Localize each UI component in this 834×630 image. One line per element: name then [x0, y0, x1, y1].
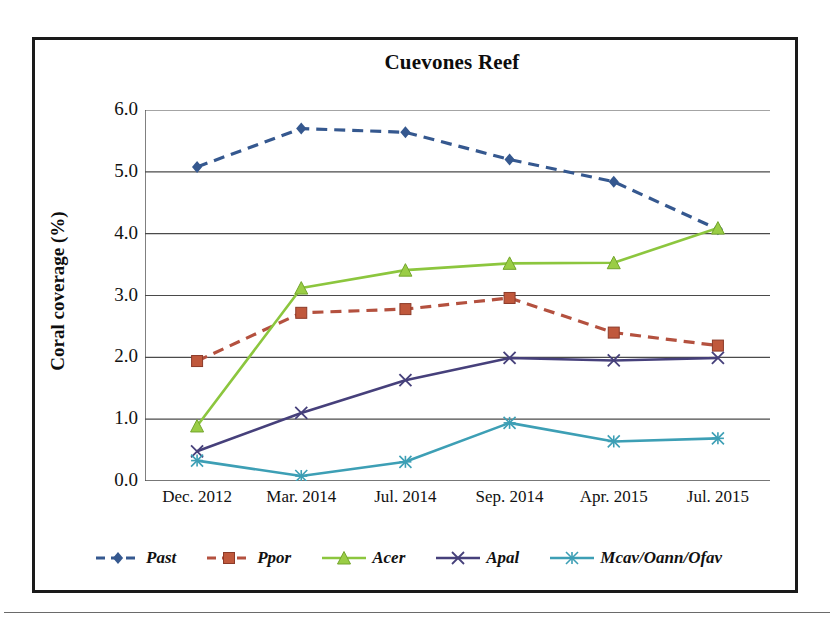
series-layer [191, 123, 725, 481]
data-point-asterisk [608, 435, 620, 447]
legend-marker-asterisk-icon [549, 550, 595, 566]
legend-marker-diamond-icon [95, 550, 141, 566]
data-point-asterisk [712, 432, 724, 444]
x-tick-label: Mar. 2014 [249, 487, 353, 515]
x-tick-label: Jul. 2014 [353, 487, 457, 515]
y-tick-label: 5.0 [78, 160, 138, 182]
data-point-square [400, 304, 411, 315]
y-axis-tick-labels: 6.05.04.03.02.01.00.0 [68, 110, 138, 481]
series-line [197, 358, 718, 451]
gridlines [145, 110, 770, 481]
data-point-asterisk [295, 470, 307, 481]
legend-item-acer[interactable]: Acer [321, 548, 405, 568]
chart-title: Cuevones Reef [0, 50, 834, 75]
data-point-square [192, 356, 203, 367]
data-point-asterisk [566, 552, 578, 564]
chart-legend: PastPporAcerApalMcav/Oann/Ofav [95, 543, 775, 573]
page-divider-rule [4, 612, 830, 613]
data-point-asterisk [191, 455, 203, 467]
x-tick-label: Apr. 2015 [562, 487, 666, 515]
legend-marker-square-icon [206, 550, 252, 566]
y-tick-label: 0.0 [78, 469, 138, 491]
data-point-diamond [113, 552, 123, 564]
data-point-diamond [192, 161, 202, 173]
legend-label: Apal [486, 548, 519, 568]
y-tick-label: 1.0 [78, 407, 138, 429]
data-point-triangle [711, 222, 724, 235]
chart-svg [145, 110, 770, 481]
data-point-diamond [296, 123, 306, 135]
plot-area [145, 110, 770, 481]
legend-label: Mcav/Oann/Ofav [600, 548, 722, 568]
data-point-diamond [504, 153, 514, 165]
series-line [197, 228, 718, 426]
data-point-asterisk [399, 456, 411, 468]
legend-item-mcav-oann-ofav[interactable]: Mcav/Oann/Ofav [549, 548, 722, 568]
data-point-asterisk [504, 417, 516, 429]
figure-page: Cuevones Reef Coral coverage (%) 6.05.04… [0, 0, 834, 630]
data-point-square [504, 292, 515, 303]
y-tick-label: 4.0 [78, 222, 138, 244]
x-tick-label: Jul. 2015 [666, 487, 770, 515]
data-point-square [224, 553, 235, 564]
legend-label: Past [146, 548, 176, 568]
legend-item-past[interactable]: Past [95, 548, 176, 568]
data-point-diamond [609, 176, 619, 188]
y-tick-label: 3.0 [78, 284, 138, 306]
x-tick-label: Sep. 2014 [458, 487, 562, 515]
data-point-square [296, 307, 307, 318]
series-mcav-oann-ofav [191, 417, 724, 481]
series-line [197, 129, 718, 230]
series-acer [191, 222, 725, 432]
legend-marker-triangle-icon [321, 550, 367, 566]
data-point-diamond [400, 126, 410, 138]
legend-marker-cross-icon [435, 550, 481, 566]
y-tick-label: 6.0 [78, 98, 138, 120]
legend-item-apal[interactable]: Apal [435, 548, 519, 568]
x-tick-label: Dec. 2012 [145, 487, 249, 515]
data-point-square [712, 340, 723, 351]
y-tick-label: 2.0 [78, 345, 138, 367]
x-axis-tick-labels: Dec. 2012Mar. 2014Jul. 2014Sep. 2014Apr.… [145, 487, 770, 515]
y-axis-title: Coral coverage (%) [47, 141, 69, 441]
legend-item-ppor[interactable]: Ppor [206, 548, 291, 568]
legend-label: Ppor [257, 548, 291, 568]
legend-label: Acer [372, 548, 405, 568]
series-past [192, 123, 723, 236]
series-line [197, 298, 718, 361]
series-line [197, 423, 718, 476]
data-point-square [608, 327, 619, 338]
